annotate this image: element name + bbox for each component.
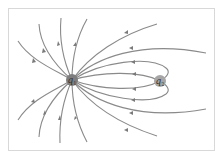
arrow-icon — [58, 115, 61, 120]
arrow-icon — [129, 46, 133, 50]
field-lines — [18, 18, 206, 143]
arrow-icon — [131, 98, 135, 102]
charge-q1: q1 — [66, 74, 78, 86]
arrow-icon — [31, 99, 35, 103]
field-line-diagram: q1 q2 — [0, 0, 224, 159]
arrow-icon — [57, 41, 60, 46]
arrow-icon — [73, 42, 76, 46]
arrow-icon — [132, 72, 136, 76]
field-line — [72, 24, 157, 80]
arrow-icon — [43, 110, 46, 115]
field-line — [72, 73, 160, 81]
field-line — [72, 80, 206, 113]
arrow-icon — [124, 128, 128, 132]
arrow-icon — [131, 60, 135, 64]
arrow-icon — [124, 30, 128, 34]
charge-q2: q2 — [154, 75, 166, 87]
arrow-icon — [129, 111, 133, 115]
arrow-icon — [42, 48, 46, 53]
field-arrows — [31, 30, 136, 132]
